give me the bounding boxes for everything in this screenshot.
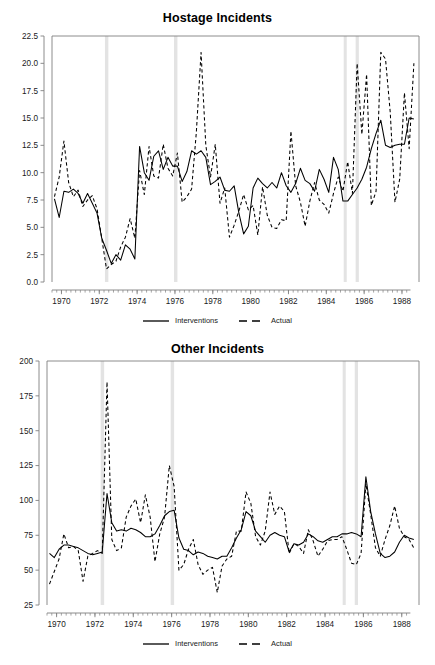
y-tick-label: 75 [24,531,34,540]
y-tick-label: 15.0 [22,114,38,123]
y-tick-label: 2.5 [27,251,39,260]
y-tick-label: 20.0 [22,59,38,68]
y-tick-label: 5.0 [27,223,39,232]
y-tick-label: 12.5 [22,141,38,150]
y-tick-label: 50 [24,566,34,575]
x-tick-label: 1980 [239,620,258,629]
y-tick-label: 0.0 [27,278,39,287]
figure-page: Hostage Incidents 0.02.55.07.510.012.515… [0,0,435,665]
legend-item-actual: Actual [239,639,292,648]
legend-item-actual: Actual [239,316,292,325]
intervention-band-3 [343,361,346,605]
intervention-band-2 [171,361,174,605]
y-tick-label: 175 [19,392,33,401]
intervention-band-3 [344,36,347,282]
chart-panel-hostage: Hostage Incidents 0.02.55.07.510.012.515… [0,0,435,332]
legend-item-interventions: Interventions [143,316,218,325]
x-tick-label: 1984 [316,620,335,629]
y-tick-label: 150 [19,427,33,436]
x-tick-label: 1972 [90,297,109,306]
x-tick-label: 1980 [242,297,261,306]
y-tick-label: 7.5 [27,196,39,205]
legend-item-interventions: Interventions [143,639,218,648]
intervention-band-1 [101,361,104,605]
legend-swatch-dashed-icon [239,640,265,648]
y-tick-label: 22.5 [22,32,38,41]
x-tick-label: 1986 [355,297,374,306]
legend-hostage: Interventions Actual [0,316,435,327]
series-line-interventions [54,118,413,263]
y-tick-label: 200 [19,357,33,366]
legend-label-actual: Actual [271,316,292,325]
x-tick-label: 1972 [86,620,105,629]
x-tick-label: 1988 [393,297,412,306]
legend-label-interventions: Interventions [175,639,218,648]
x-tick-label: 1978 [201,620,220,629]
x-tick-label: 1970 [47,620,66,629]
y-tick-label: 10.0 [22,169,38,178]
x-tick-label: 1982 [278,620,297,629]
legend-label-actual: Actual [271,639,292,648]
x-tick-label: 1982 [279,297,298,306]
x-tick-label: 1976 [163,620,182,629]
y-tick-label: 17.5 [22,87,38,96]
legend-label-interventions: Interventions [175,316,218,325]
intervention-band-4 [355,361,358,605]
x-tick-label: 1974 [128,297,147,306]
x-tick-label: 1970 [52,297,71,306]
y-tick-label: 125 [19,461,33,470]
y-tick-label: 100 [19,496,33,505]
x-tick-label: 1974 [124,620,143,629]
x-tick-label: 1978 [204,297,223,306]
intervention-band-1 [105,36,108,282]
y-tick-label: 25 [24,601,34,610]
x-tick-label: 1988 [393,620,412,629]
legend-swatch-dashed-icon [239,317,265,325]
legend-other: Interventions Actual [0,639,435,650]
legend-swatch-solid-icon [143,640,169,648]
x-tick-label: 1986 [354,620,373,629]
x-tick-label: 1976 [166,297,185,306]
plot-hostage-incidents: 0.02.55.07.510.012.515.017.520.022.51970… [0,0,435,332]
legend-swatch-solid-icon [143,317,169,325]
chart-panel-other: Other Incidents 255075100125150175200197… [0,333,435,665]
x-tick-label: 1984 [317,297,336,306]
series-line-actual [54,52,413,268]
plot-other-incidents: 2550751001251501752001970197219741976197… [0,333,435,665]
